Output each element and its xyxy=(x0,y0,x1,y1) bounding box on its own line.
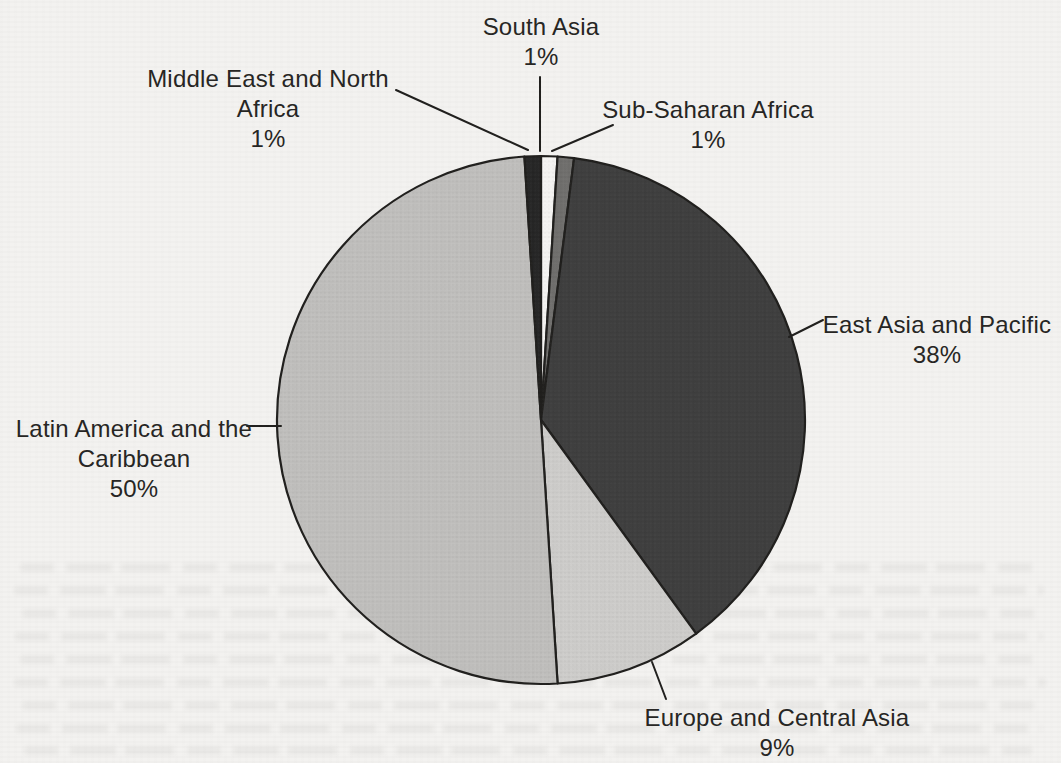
pie-label-percent: 1% xyxy=(483,42,600,72)
halftone-texture-overlay xyxy=(278,157,804,683)
pie-label-percent: 50% xyxy=(16,474,252,504)
europe-central-asia-leader-line xyxy=(652,662,666,699)
pie-label-text: South Asia xyxy=(483,12,600,42)
pie-label-sub-saharan-africa: Sub-Saharan Africa 1% xyxy=(602,95,814,155)
pie-label-text: Middle East and North xyxy=(147,64,389,94)
east-asia-pacific-leader-line xyxy=(789,320,823,337)
pie-label-latin-america-caribbean: Latin America and the Caribbean 50% xyxy=(16,414,252,504)
pie-label-europe-central-asia: Europe and Central Asia 9% xyxy=(645,703,910,763)
pie-label-text: Latin America and the xyxy=(16,414,252,444)
pie-label-middle-east-north-africa: Middle East and North Africa 1% xyxy=(147,64,389,154)
pie-label-text: Caribbean xyxy=(16,444,252,474)
pie-label-text: Europe and Central Asia xyxy=(645,703,910,733)
pie-label-text: Sub-Saharan Africa xyxy=(602,95,814,125)
pie-label-south-asia: South Asia 1% xyxy=(483,12,600,72)
middle-east-north-africa-leader-line xyxy=(396,90,528,150)
pie-label-east-asia-pacific: East Asia and Pacific 38% xyxy=(823,310,1051,370)
pie-label-text: Africa xyxy=(147,94,389,124)
pie-label-percent: 1% xyxy=(602,125,814,155)
pie-label-percent: 9% xyxy=(645,733,910,763)
pie-label-text: East Asia and Pacific xyxy=(823,310,1051,340)
pie-label-percent: 38% xyxy=(823,340,1051,370)
pie-label-percent: 1% xyxy=(147,124,389,154)
